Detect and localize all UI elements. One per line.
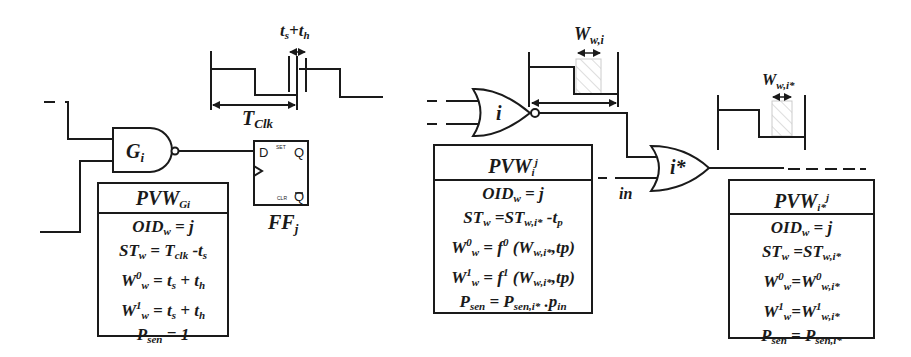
waveform-i (529, 52, 618, 107)
tclk-label: TClk (242, 107, 274, 131)
pvw-i-psen: Psen = Psen,i* .pin (435, 292, 591, 316)
ff-pin-clr: CLR (277, 195, 287, 201)
pvw-gi-body: OIDw = j STw = Tclk -ts W0w = ts + th W1… (99, 214, 227, 349)
istar-output-wire (709, 168, 866, 169)
pvw-istar-w0: W0w=W0w,i* (730, 266, 873, 296)
gate-istar-label: i* (670, 156, 687, 178)
pvw-gi-w1: W1w = ts + th (99, 295, 227, 325)
pvw-gi-title: PVWGi (99, 184, 227, 214)
pvw-i-w1: W1w = f1 (Ww,i*,tp) (435, 262, 591, 292)
pvw-istar-psen: Psen = Psen,i* (730, 326, 873, 350)
ff-pin-d: D (259, 145, 268, 160)
gate-i-label: i (496, 102, 502, 124)
waveform-istar (718, 95, 805, 150)
pvw-box-i: PVWij OIDw = j STw =STw,i* -tp W0w = f0 … (433, 144, 593, 314)
pvw-gi-psen: Psen = 1 (99, 325, 227, 349)
input-in-label: in (619, 185, 632, 202)
pvw-istar-st: STw =STw,i* (730, 242, 873, 266)
nor-bubble (531, 109, 539, 117)
pvw-i-title: PVWij (435, 146, 591, 181)
pvw-i-st: STw =STw,i* -tp (435, 208, 591, 232)
clock-waveform (211, 51, 383, 110)
nand-bubble (172, 148, 179, 155)
pvw-i-body: OIDw = j STw =STw,i* -tp W0w = f0 (Ww,i*… (435, 181, 591, 316)
pvw-istar-w1: W1w=W1w,i* (730, 296, 873, 326)
pvw-i-w0: W0w = f0 (Ww,i*,tp) (435, 232, 591, 262)
setup-hold-label: ts+th (280, 21, 310, 41)
pvw-gi-oid: OIDw = j (99, 217, 227, 241)
width-istar-label: Ww,i* (762, 71, 795, 91)
pvw-box-gi: PVWGi OIDw = j STw = Tclk -ts W0w = ts +… (97, 182, 229, 337)
pvw-gi-w0: W0w = ts + th (99, 265, 227, 295)
pvw-box-istar: PVWi*j OIDw = j STw =STw,i* W0w=W0w,i* W… (728, 179, 875, 339)
ff-pin-q: Q (294, 145, 304, 160)
ff-pin-set: SET (276, 144, 286, 150)
pvw-istar-title: PVWi*j (730, 181, 873, 215)
ff-pin-qbar: Q (294, 189, 304, 204)
gate-i-inputs (427, 101, 480, 124)
pvw-istar-body: OIDw = j STw =STw,i* W0w=W0w,i* W1w=W1w,… (730, 215, 873, 350)
pvw-istar-oid: OIDw = j (730, 218, 873, 242)
ff-label: FFj (267, 211, 299, 236)
width-i-label: Ww,i (574, 24, 605, 47)
pvw-i-oid: OIDw = j (435, 184, 591, 208)
pvw-gi-st: STw = Tclk -ts (99, 241, 227, 265)
